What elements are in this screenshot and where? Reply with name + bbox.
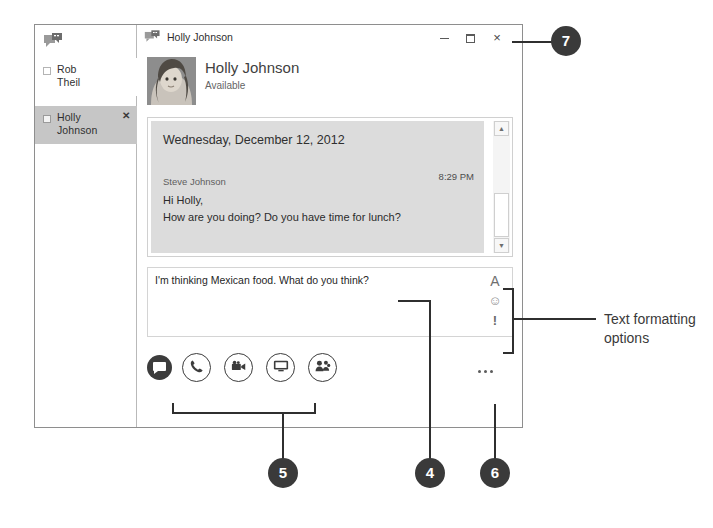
- avatar: [147, 57, 196, 105]
- contact-display-name: Holly Johnson: [205, 59, 299, 76]
- callout-7: 7: [551, 26, 581, 56]
- callout-6: 6: [480, 458, 510, 488]
- history-scrollbar[interactable]: ▲ ▼: [493, 121, 510, 253]
- leader-line-5: [282, 412, 284, 460]
- message-meta: 8:29 PM Steve Johnson: [163, 171, 474, 189]
- minimize-button[interactable]: [433, 28, 455, 48]
- video-camera-icon[interactable]: [224, 353, 253, 382]
- dot: [484, 370, 487, 373]
- title-bar: Holly Johnson ×: [137, 25, 522, 53]
- bracket-action-buttons: [172, 403, 316, 414]
- contact-header: Holly Johnson Available: [137, 53, 522, 109]
- callout-4: 4: [415, 458, 445, 488]
- message-sender: Steve Johnson: [163, 176, 226, 187]
- add-participants-icon[interactable]: [308, 353, 337, 382]
- maximize-icon: [466, 34, 475, 43]
- instant-message-icon[interactable]: [147, 355, 172, 380]
- sidebar-contact-rob-theil[interactable]: Rob Theil: [35, 58, 137, 96]
- phone-icon[interactable]: [182, 353, 211, 382]
- callout-5: 5: [268, 458, 298, 488]
- window-title: Holly Johnson: [167, 31, 233, 43]
- message-timestamp: 8:29 PM: [439, 171, 474, 182]
- scroll-down-icon[interactable]: ▼: [494, 238, 509, 253]
- contact-name-line1: Holly: [57, 111, 131, 124]
- dot: [478, 370, 481, 373]
- present-monitor-icon[interactable]: [266, 353, 295, 382]
- compose-input[interactable]: I'm thinking Mexican food. What do you t…: [155, 274, 369, 286]
- contact-name-line1: Rob: [57, 63, 131, 76]
- presence-indicator: [43, 115, 51, 123]
- presence-indicator: [43, 67, 51, 75]
- close-conversation-icon[interactable]: ✕: [122, 110, 130, 122]
- minimize-icon: [440, 38, 449, 39]
- dot: [490, 370, 493, 373]
- message-line: Hi Holly,: [163, 194, 474, 206]
- contact-name-line2: Johnson: [57, 124, 131, 137]
- conversation-pane: Holly Johnson ×: [137, 25, 522, 427]
- message-body: Wednesday, December 12, 2012 8:29 PM Ste…: [151, 121, 484, 253]
- contact-name-line2: Theil: [57, 76, 131, 89]
- message-compose-area[interactable]: I'm thinking Mexican food. What do you t…: [147, 267, 513, 337]
- leader-line-6: [494, 404, 496, 460]
- message-history: Wednesday, December 12, 2012 8:29 PM Ste…: [147, 117, 513, 257]
- leader-line-4-vertical: [429, 300, 431, 460]
- conversation-date-header: Wednesday, December 12, 2012: [163, 133, 474, 147]
- lync-conversation-window: Rob Theil ✕ Holly Johnson Ho: [34, 24, 523, 428]
- lync-conversation-icon: [144, 30, 162, 47]
- maximize-button[interactable]: [459, 28, 481, 48]
- speech-bubble-glyph: [153, 362, 166, 371]
- message-line: How are you doing? Do you have time for …: [163, 211, 474, 223]
- scrollbar-thumb[interactable]: [494, 193, 509, 237]
- sidebar-contact-holly-johnson[interactable]: ✕ Holly Johnson: [35, 106, 137, 144]
- bracket-text-formatting: [503, 288, 514, 354]
- lync-conversation-icon: [43, 33, 65, 53]
- close-button[interactable]: ×: [486, 28, 508, 48]
- more-options-icon[interactable]: [478, 359, 500, 373]
- contact-presence-status: Available: [205, 80, 245, 91]
- leader-line-4-horizontal: [398, 300, 430, 302]
- leader-line-7: [512, 41, 554, 43]
- annotation-text-formatting-options: Text formatting options: [604, 310, 709, 348]
- leader-line-text-formatting: [512, 318, 596, 320]
- conversation-sidebar: Rob Theil ✕ Holly Johnson: [35, 25, 137, 427]
- scroll-up-icon[interactable]: ▲: [494, 121, 509, 136]
